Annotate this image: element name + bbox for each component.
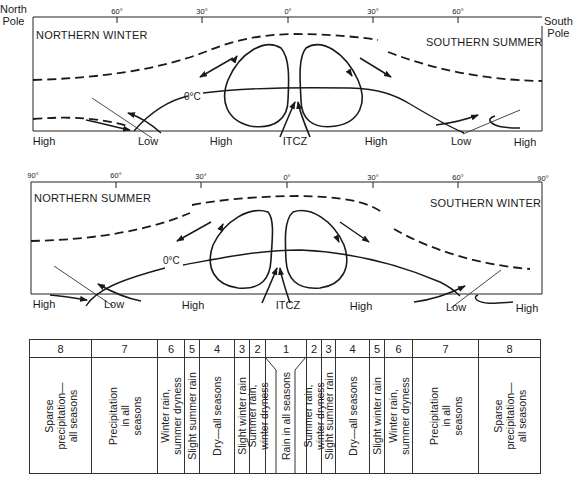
- label-line: Winter rain,: [387, 377, 399, 455]
- top-tick-30n: 30°: [196, 8, 207, 16]
- season-southern-summer: SOUTHERN SUMMER: [426, 37, 543, 48]
- bottom-tick-60n: 60°: [110, 172, 121, 180]
- zone-description: Sparseprecipitation—all seasons: [30, 358, 92, 474]
- top-zone-low-2: Low: [451, 136, 471, 147]
- top-hadley-cells: [225, 45, 363, 137]
- top-zone-itcz: ITCZ: [283, 136, 307, 147]
- label-line: Rain in all seasons: [280, 371, 292, 459]
- label-line: precipitation—: [55, 382, 67, 449]
- zone-number: 7: [413, 340, 479, 358]
- zone-description: Summer rain,winter dryness: [250, 358, 266, 474]
- label-line: summer dryness: [171, 377, 183, 455]
- top-tick-0: 0°: [284, 8, 291, 16]
- label-line: Dry—all seasons: [211, 376, 223, 455]
- zone-number: 6: [158, 340, 185, 358]
- label-line: seasons: [452, 387, 464, 445]
- zone-number: 8: [30, 340, 92, 358]
- zone-description: Dry—all seasons: [200, 358, 235, 474]
- label-line: Dry—all seasons: [347, 376, 359, 455]
- zone-number: 3: [322, 340, 336, 358]
- bottom-zone-low-2: Low: [446, 302, 466, 313]
- bottom-zone-low-1: Low: [104, 299, 124, 310]
- label-line: in all: [119, 387, 131, 445]
- bottom-tick-60s: 60°: [452, 174, 463, 182]
- north-pole-label-line1: North: [0, 3, 27, 15]
- top-tick-60s: 60°: [452, 8, 463, 16]
- label-line: all seasons: [67, 382, 79, 449]
- label-line: Slight summer rain: [186, 372, 198, 460]
- bottom-zone-high-2: High: [182, 300, 205, 311]
- label-line: Precipitation: [428, 387, 440, 445]
- label-line: Summer rain,: [302, 382, 314, 450]
- zone-number: 4: [336, 340, 370, 358]
- bottom-zone-high-3: High: [350, 301, 373, 312]
- top-zone-high-4: High: [514, 137, 537, 148]
- label-line: Sparse: [43, 382, 55, 449]
- label-line: all seasons: [516, 382, 528, 449]
- bottom-tick-90n: 90°: [27, 172, 38, 180]
- season-northern-winter: NORTHERN WINTER: [36, 30, 148, 41]
- zone-description: Slight summer rain: [185, 358, 200, 474]
- zone-description: Winter rain,summer dryness: [158, 358, 185, 474]
- bottom-zone-itcz: ITCZ: [276, 300, 300, 311]
- zone-number: 5: [185, 340, 200, 358]
- bottom-tick-30n: 30°: [195, 173, 206, 181]
- label-line: Slight summer rain: [323, 372, 335, 460]
- zone-number: 3: [235, 340, 250, 358]
- zone-description: Dry—all seasons: [336, 358, 370, 474]
- zone-description: Summer rain,winter dryness: [307, 358, 322, 474]
- label-line: Slight winter rain: [371, 377, 383, 455]
- top-isotherm-label: 0°C: [184, 92, 201, 102]
- bottom-surface-winds: [50, 222, 513, 303]
- zone-number: 1: [266, 340, 307, 358]
- bottom-isotherm-label: 0°C: [163, 256, 180, 266]
- bottom-tick-0: 0°: [283, 174, 290, 182]
- top-tick-60n: 60°: [111, 8, 122, 16]
- label-line: in all: [440, 387, 452, 445]
- bottom-zone-high-1: High: [33, 299, 56, 310]
- zone-description: Sparseprecipitation—all seasons: [479, 358, 541, 474]
- top-zone-high-2: High: [210, 136, 233, 147]
- precipitation-regime-table: 8 7 6 5 4 3 2 1 2 3 4 5 6 7 8 Sparseprec…: [29, 339, 541, 474]
- top-zone-low-1: Low: [138, 136, 158, 147]
- zone-number: 7: [92, 340, 158, 358]
- label-line: Sparse: [492, 382, 504, 449]
- top-tick-30s: 30°: [367, 8, 378, 16]
- zone-number: 6: [385, 340, 413, 358]
- zone-description: Slight summer rain: [322, 358, 336, 474]
- zone-description-row: Sparseprecipitation—all seasons Precipit…: [30, 358, 541, 474]
- bottom-tick-90s: 90°: [537, 175, 548, 183]
- top-zone-high-1: High: [33, 136, 56, 147]
- zone-number: 8: [479, 340, 541, 358]
- north-pole-label: North Pole: [0, 3, 27, 27]
- north-pole-label-line2: Pole: [0, 15, 27, 27]
- label-line: precipitation—: [504, 382, 516, 449]
- zone-description: Slight winter rain: [370, 358, 385, 474]
- label-line: Summer rain,: [246, 382, 258, 450]
- zone-description: Rain in all seasons: [266, 358, 307, 474]
- south-pole-label: South Pole: [544, 15, 573, 39]
- zone-description: Precipitationin allseasons: [92, 358, 158, 474]
- top-surface-winds: [86, 58, 520, 133]
- bottom-tick-30s: 30°: [367, 174, 378, 182]
- bottom-zone-high-4: High: [516, 303, 539, 314]
- season-southern-winter: SOUTHERN WINTER: [430, 198, 541, 209]
- zone-number: 2: [307, 340, 322, 358]
- top-zone-high-3: High: [365, 136, 388, 147]
- label-line: Winter rain,: [159, 377, 171, 455]
- season-northern-summer: NORTHERN SUMMER: [34, 193, 151, 204]
- label-line: seasons: [131, 387, 143, 445]
- zone-description: Precipitationin allseasons: [413, 358, 479, 474]
- zone-description: Winter rain,summer dryness: [385, 358, 413, 474]
- zone-number-row: 8 7 6 5 4 3 2 1 2 3 4 5 6 7 8: [30, 340, 541, 358]
- south-pole-label-line1: South: [544, 15, 573, 27]
- zone-number: 5: [370, 340, 385, 358]
- zone-number: 2: [250, 340, 266, 358]
- label-line: summer dryness: [399, 377, 411, 455]
- label-line: Precipitation: [107, 387, 119, 445]
- south-pole-label-line2: Pole: [544, 27, 573, 39]
- zone-number: 4: [200, 340, 235, 358]
